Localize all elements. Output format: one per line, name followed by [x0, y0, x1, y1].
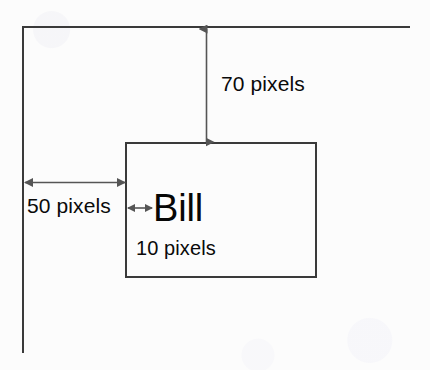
- diagram-canvas: 70 pixels 50 pixels 10 pixels Bill: [0, 0, 430, 370]
- left-padding-label: 10 pixels: [136, 238, 216, 258]
- container-top-edge: [22, 26, 410, 28]
- top-margin-label: 70 pixels: [221, 73, 305, 94]
- left-margin-label: 50 pixels: [27, 195, 111, 216]
- container-left-edge: [22, 26, 24, 353]
- element-content-text: Bill: [153, 189, 203, 227]
